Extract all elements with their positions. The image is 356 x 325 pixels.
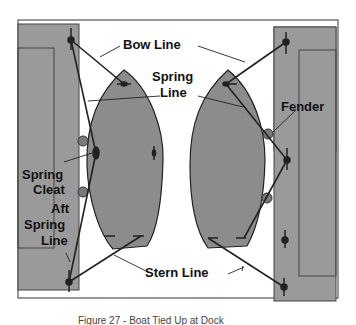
aft-spring-label-3: Line [41,233,68,248]
spring-line-label-1: Spring [152,69,193,84]
spring-cleat-label-1: Spring [22,167,63,182]
figure-caption: Figure 27 - Boat Tied Up at Dock [78,315,225,325]
right-dock [274,27,336,301]
bow-line-label: Bow Line [123,37,181,52]
left-dock [18,24,79,290]
spring-cleat-label-2: Cleat [33,182,65,197]
stern-line-label: Stern Line [145,265,209,280]
fender-label: Fender [281,99,324,114]
spring-line-label-2: Line [160,85,187,100]
docking-diagram: Bow Line Spring Line Fender Spring Cleat… [0,0,356,325]
aft-spring-label-1: Aft [51,201,70,216]
aft-spring-label-2: Spring [24,217,65,232]
